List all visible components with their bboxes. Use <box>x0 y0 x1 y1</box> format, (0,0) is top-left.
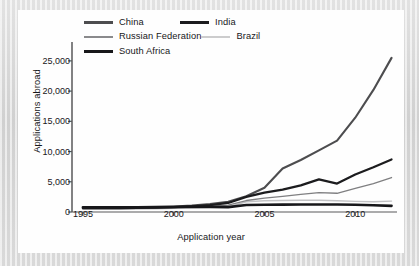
y-tick-label: 15,000 <box>24 116 70 126</box>
y-tick-label: 10,000 <box>24 147 70 157</box>
y-tick-label: 5,000 <box>24 177 70 187</box>
y-tick-label: 20,000 <box>24 86 70 96</box>
x-axis-tick-labels: 1995200020052010 <box>18 209 404 229</box>
series-line-china <box>83 58 392 208</box>
x-tick-label: 1995 <box>55 209 111 219</box>
y-axis-title: Applications abroad <box>32 56 42 166</box>
x-tick-label: 2000 <box>146 209 202 219</box>
line-chart-figure: China India Russian Federation Brazil So… <box>18 10 404 253</box>
y-tick-label: 25,000 <box>24 56 70 66</box>
x-tick-label: 2010 <box>327 209 383 219</box>
figure-card: China India Russian Federation Brazil So… <box>18 10 404 253</box>
x-axis-title: Application year <box>18 232 404 242</box>
x-tick-label: 2005 <box>236 209 292 219</box>
plot-area: 05,00010,00015,00020,00025,000 199520002… <box>18 10 404 253</box>
series-line-south-africa <box>83 205 392 208</box>
